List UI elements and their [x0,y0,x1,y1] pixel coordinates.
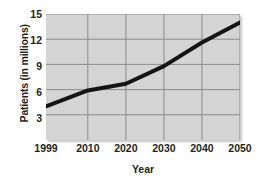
plot-canvas [46,14,240,140]
plot-area [46,14,240,140]
line-chart-figure: Patients (in millions) 3 6 9 12 15 19992… [0,0,265,189]
y-tick-label: 6 [20,87,42,98]
y-tick-label: 15 [20,9,42,20]
y-tick-label: 3 [20,113,42,124]
x-axis-title: Year [46,164,240,175]
y-tick-label: 12 [20,35,42,46]
x-tick-label: 1999 [23,143,69,154]
x-axis-tick-labels: 199920102020203020402050 [0,143,265,159]
x-tick-label: 2050 [217,143,263,154]
y-axis-tick-labels: 3 6 9 12 15 [20,0,42,189]
y-tick-label: 9 [20,61,42,72]
